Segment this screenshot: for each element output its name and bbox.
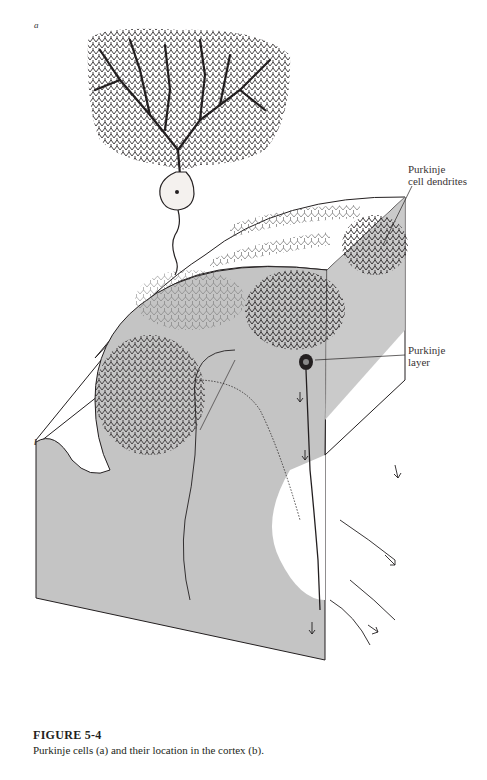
- callout-layer-line2: layer: [408, 356, 445, 368]
- cortex-block-b: [36, 186, 412, 660]
- callout-purkinje-layer: Purkinje layer: [408, 344, 445, 368]
- figure-illustration: [0, 0, 487, 780]
- callout-dendrites-line2: cell dendrites: [408, 175, 467, 187]
- callout-layer-line1: Purkinje: [408, 344, 445, 356]
- figure-caption: FIGURE 5-4 Purkinje cells (a) and their …: [33, 728, 333, 756]
- callout-purkinje-cell-dendrites: Purkinje cell dendrites: [408, 163, 467, 187]
- caption-title: FIGURE 5-4: [33, 728, 333, 743]
- callout-dendrites-line1: Purkinje: [408, 163, 467, 175]
- caption-text: Purkinje cells (a) and their location in…: [33, 744, 333, 756]
